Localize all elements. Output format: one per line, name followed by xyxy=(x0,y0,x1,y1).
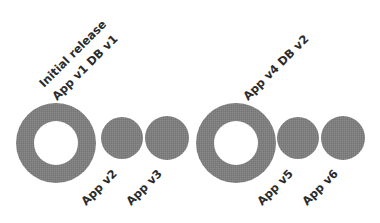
release-node-ring-app-v4-db-v2[interactable] xyxy=(196,103,276,183)
release-node-circle-app-v5[interactable] xyxy=(277,117,319,159)
release-node-circle-app-v3[interactable] xyxy=(145,116,189,160)
release-node-circle-app-v6[interactable] xyxy=(321,116,365,160)
release-node-ring-initial-release[interactable] xyxy=(16,103,96,183)
diagram-canvas: Initial release App v1 DB v1 App v2 App … xyxy=(0,0,380,223)
release-timeline-diagram: Initial release App v1 DB v1 App v2 App … xyxy=(0,0,380,223)
release-node-circle-app-v2[interactable] xyxy=(101,117,143,159)
